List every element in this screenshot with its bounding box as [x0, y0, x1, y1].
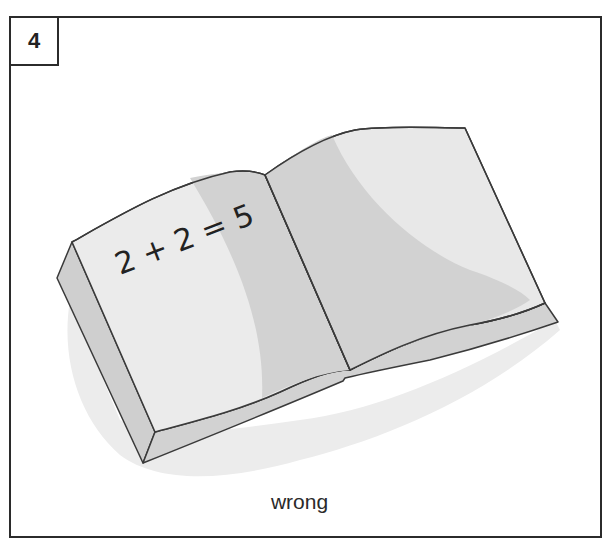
caption-label: wrong [0, 490, 599, 514]
card-number: 4 [9, 16, 59, 66]
